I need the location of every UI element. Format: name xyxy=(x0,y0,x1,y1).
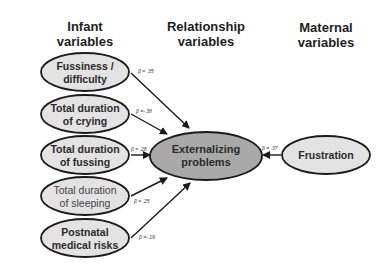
label-line: Total duration xyxy=(41,143,129,156)
column-header-maternal-line1: Maternal xyxy=(266,20,386,35)
column-header-infant-line2: variables xyxy=(25,34,145,49)
column-header-relationship-line1: Relationship xyxy=(146,19,266,34)
arrow-fussiness-to-externalizing xyxy=(131,73,189,128)
column-header-maternal-line2: variables xyxy=(266,35,386,50)
label-line: Total duration xyxy=(41,184,129,197)
label-line: Fussiness / xyxy=(41,60,129,73)
column-header-maternal: Maternal variables xyxy=(266,20,386,50)
label-line: of fussing xyxy=(41,156,129,169)
label-line: of sleeping xyxy=(41,197,129,210)
label-line: Externalizing xyxy=(150,143,262,156)
label-total-duration-sleeping: Total duration of sleeping xyxy=(41,184,129,209)
column-header-infant-line1: Infant xyxy=(25,19,145,34)
beta-medical-risks: β =-.19 xyxy=(139,234,155,240)
path-diagram: Infant variables Relationship variables … xyxy=(0,0,391,274)
label-total-duration-fussing: Total duration of fussing xyxy=(41,143,129,168)
beta-fussing: β = .28 xyxy=(131,146,147,152)
label-line: problems xyxy=(150,156,262,169)
label-line: Frustration xyxy=(282,149,370,162)
label-line: Postnatal xyxy=(41,226,129,239)
label-line: difficulty xyxy=(41,73,129,86)
column-header-infant: Infant variables xyxy=(25,19,145,49)
beta-frustration: β = .37 xyxy=(262,145,278,151)
label-postnatal-medical-risks: Postnatal medical risks xyxy=(41,226,129,251)
beta-crying: β =-.38 xyxy=(136,108,152,114)
label-line: of crying xyxy=(41,115,129,128)
arrow-crying-to-externalizing xyxy=(131,114,167,134)
label-fussiness-difficulty: Fussiness / difficulty xyxy=(41,60,129,85)
label-line: medical risks xyxy=(41,239,129,252)
column-header-relationship-line2: variables xyxy=(146,34,266,49)
beta-sleeping: β = .25 xyxy=(134,198,150,204)
label-frustration: Frustration xyxy=(282,149,370,162)
column-header-relationship: Relationship variables xyxy=(146,19,266,49)
arrow-sleeping-to-externalizing xyxy=(131,178,167,196)
label-line: Total duration xyxy=(41,102,129,115)
label-total-duration-crying: Total duration of crying xyxy=(41,102,129,127)
beta-fussiness: β = .35 xyxy=(138,68,154,74)
label-externalizing-problems: Externalizing problems xyxy=(150,143,262,169)
